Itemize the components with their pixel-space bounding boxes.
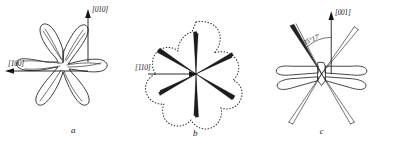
panel-a-vertical-axis-label: [010] (92, 5, 108, 14)
panel-a-letter: a (71, 125, 76, 135)
figure-container: [010] [100] a (0, 0, 395, 144)
panel-a-rosette (17, 24, 108, 105)
panel-a-horizontal-axis-label: [100] (8, 59, 24, 68)
panel-a: [010] [100] a (0, 0, 132, 144)
panel-c-vertical-axis: [001] (329, 9, 351, 74)
panel-a-horizontal-axis: [100] (5, 59, 88, 74)
panel-b: [110] b (130, 0, 262, 144)
panel-c: [001] 35°17' c (258, 0, 390, 144)
panel-c-vertical-axis-label: [001] (335, 9, 351, 17)
panel-a-vertical-axis: [010] (85, 5, 108, 62)
panel-c-angle-label: 35°17' (301, 32, 321, 46)
panel-b-letter: b (193, 128, 198, 138)
panel-c-angle-annotation: 35°17' (301, 32, 331, 47)
panel-c-letter: c (320, 126, 324, 136)
panel-b-horizontal-axis-label: [110] (135, 63, 151, 72)
